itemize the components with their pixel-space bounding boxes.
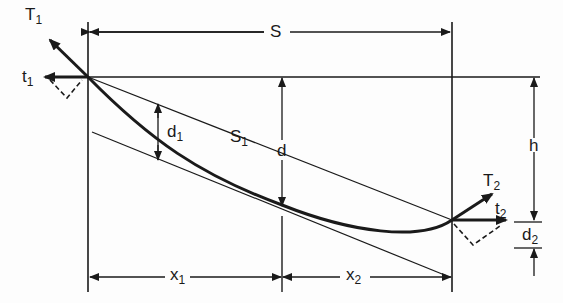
tension-t2-vector [452,194,492,220]
tension-t1-vector [50,40,88,77]
label-h: h [529,137,538,154]
label-t1: t1 [22,68,33,88]
t1-force-triangle [50,80,82,98]
chord-line-s1 [88,77,452,220]
label-x1: x1 [170,266,185,286]
label-d2: d2 [522,226,538,246]
label-S1: S1 [230,128,248,148]
label-d: d [277,142,286,159]
label-x2: x2 [346,266,361,286]
tangent-line [92,132,447,276]
label-d1: d1 [167,123,183,143]
cable-curve [88,77,452,232]
label-T2: T2 [483,172,500,192]
label-S: S [270,23,281,40]
label-t2: t2 [495,200,506,220]
label-T1: T1 [25,6,42,26]
t2-force-triangle [454,224,500,245]
cable-sag-diagram: T1 t1 S d1 d S1 h T2 t2 d2 x1 x2 [0,0,563,303]
